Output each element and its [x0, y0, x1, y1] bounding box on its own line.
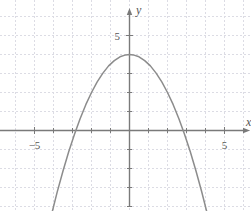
y-axis-name-label: y: [135, 3, 142, 17]
axes: [0, 8, 250, 206]
x-axis-tick-label-neg5: −5: [29, 139, 41, 151]
x-axis-name-label: x: [245, 115, 251, 129]
y-axis-tick-label-5: 5: [115, 30, 121, 42]
parabola-graph-figure: −5 5 5 y x: [0, 0, 251, 211]
grid-lines: [0, 0, 251, 211]
y-axis-arrow: [127, 8, 132, 15]
x-axis-tick-label-5: 5: [222, 139, 228, 151]
horizontal-grid-lines: [0, 17, 251, 207]
plot-canvas: −5 5 5 y x: [0, 0, 251, 211]
